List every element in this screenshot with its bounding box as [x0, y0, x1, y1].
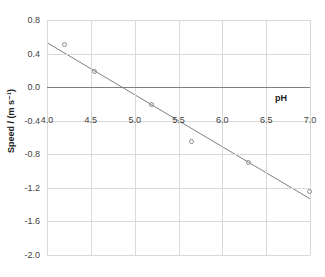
gridline-vertical — [310, 20, 311, 255]
gridline-horizontal — [47, 154, 310, 155]
y-tick-label: -2.0 — [0, 251, 40, 260]
y-tick-label: -1.2 — [0, 184, 40, 193]
gridline-vertical — [222, 20, 223, 255]
y-tick-label: -0.4 — [0, 117, 40, 126]
data-point-marker — [62, 42, 67, 47]
data-point-marker — [307, 189, 312, 194]
gridline-vertical — [266, 20, 267, 255]
y-tick-label: -1.6 — [0, 217, 40, 226]
y-tick-label: 0.8 — [0, 16, 40, 25]
x-tick-label: 4.5 — [76, 116, 106, 125]
x-tick-label: 5.5 — [164, 116, 194, 125]
y-tick-label: 0.0 — [0, 83, 40, 92]
gridline-vertical — [135, 20, 136, 255]
data-point-marker — [149, 102, 154, 107]
data-point-marker — [189, 139, 194, 144]
y-tick-label: -0.8 — [0, 150, 40, 159]
gridline-horizontal — [47, 20, 310, 21]
x-tick-label: 6.5 — [251, 116, 281, 125]
gridline-horizontal — [47, 221, 310, 222]
x-tick-label: 5.0 — [120, 116, 150, 125]
scatter-chart: Speed / (m s⁻¹) pH 4.04.55.05.56.06.57.0… — [0, 0, 325, 277]
x-axis-title: pH — [275, 93, 287, 103]
x-tick-label: 6.0 — [207, 116, 237, 125]
gridline-horizontal — [47, 255, 310, 256]
plot-area — [47, 20, 310, 255]
gridline-vertical — [179, 20, 180, 255]
x-tick-label: 7.0 — [295, 116, 325, 125]
gridline-vertical — [47, 20, 48, 255]
gridline-vertical — [91, 20, 92, 255]
zero-line — [47, 87, 310, 88]
gridline-horizontal — [47, 54, 310, 55]
y-tick-label: 0.4 — [0, 50, 40, 59]
gridline-horizontal — [47, 188, 310, 189]
data-point-marker — [246, 160, 251, 165]
